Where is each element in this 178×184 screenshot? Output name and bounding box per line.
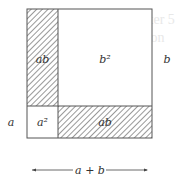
ab-horizontal-label: ab [98, 116, 112, 129]
arrowhead-left-icon [32, 169, 36, 172]
arrowhead-right-icon [144, 169, 148, 172]
dimension-label: a + b [75, 164, 105, 177]
ab-vertical-label: ab [36, 53, 50, 66]
side-label-a: a [8, 116, 15, 129]
binomial-square-diagram: Chapter 5 Fission ab b² a² ab a b a + b [0, 0, 178, 184]
a-squared-label: a² [37, 116, 48, 129]
b-squared-label: b² [99, 53, 110, 66]
side-label-b: b [163, 53, 170, 66]
